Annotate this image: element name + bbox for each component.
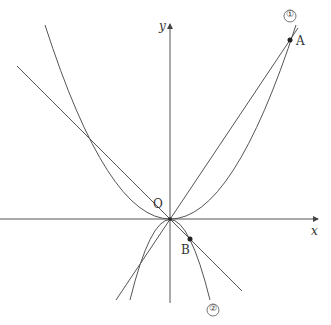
point-b xyxy=(188,237,193,242)
diagram: y x O A B ① ② xyxy=(0,0,331,325)
graph xyxy=(0,0,331,325)
point-a xyxy=(288,38,293,43)
line-oa xyxy=(116,28,298,300)
curve2-label: ② xyxy=(209,303,217,313)
y-axis-label: y xyxy=(159,19,166,33)
x-axis-label: x xyxy=(311,224,318,238)
curve1-label: ① xyxy=(286,9,294,19)
point-a-label: A xyxy=(296,34,305,48)
origin-point xyxy=(168,217,172,221)
origin-label: O xyxy=(153,197,163,211)
line-y-neg-x xyxy=(17,66,242,291)
point-b-label: B xyxy=(181,243,190,257)
